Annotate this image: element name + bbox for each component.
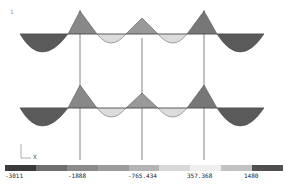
legend-swatch — [67, 165, 98, 171]
legend-swatch — [221, 165, 252, 171]
legend-tick-label: 357.368 — [187, 172, 212, 179]
hog-peak-2-lower — [187, 85, 217, 108]
span-3-sag-upper — [217, 34, 264, 52]
legend-ticks: -3011-1888-765.434357.3681480 — [0, 172, 284, 182]
contour-legend-bar — [5, 165, 283, 171]
frame-moment-diagram: 1 X — [0, 0, 284, 190]
hog-peak-1-upper — [68, 11, 97, 34]
span-2-sag-right-upper — [158, 34, 187, 43]
hog-peak-mid-upper — [126, 18, 158, 34]
span-2-sag-right-lower — [158, 108, 187, 117]
span-2-sag-left-lower — [97, 108, 126, 117]
legend-tick-label: -1888 — [68, 172, 86, 179]
span-2-sag-left-upper — [97, 34, 126, 43]
legend-swatch — [252, 165, 283, 171]
axis-triad-icon — [21, 144, 31, 158]
span-3-sag-lower — [217, 108, 264, 126]
corner-mark: 1 — [10, 8, 14, 15]
hog-peak-mid-lower — [126, 93, 158, 108]
hog-peak-1-lower — [68, 85, 97, 108]
legend-swatch — [190, 165, 221, 171]
axis-x-label: X — [33, 153, 37, 160]
legend-swatch — [159, 165, 190, 171]
span-1-sag-upper — [20, 34, 68, 52]
span-1-sag-lower — [20, 108, 68, 126]
legend-swatch — [5, 165, 36, 171]
legend-swatch — [129, 165, 160, 171]
hog-peak-2-upper — [187, 11, 217, 34]
legend-swatch — [36, 165, 67, 171]
legend-tick-label: -765.434 — [128, 172, 157, 179]
legend-tick-label: 1480 — [244, 172, 258, 179]
legend-tick-label: -3011 — [5, 172, 23, 179]
legend-swatch — [98, 165, 129, 171]
